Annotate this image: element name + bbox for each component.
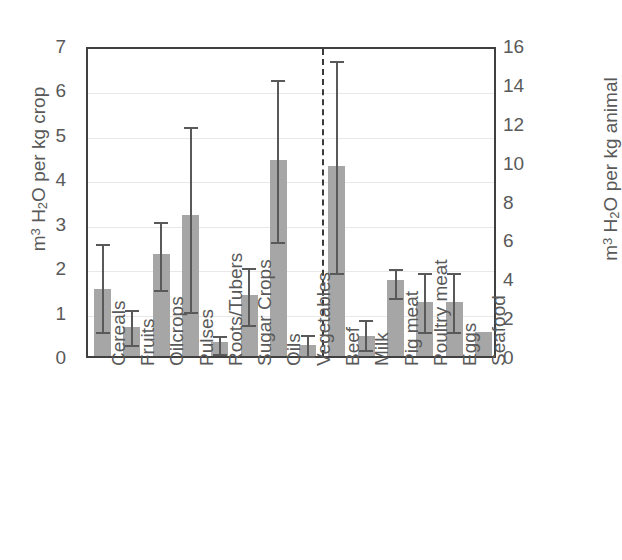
- x-label-poultry-meat: Poultry meat: [431, 259, 450, 366]
- x-label-sugar-crops: Sugar Crops: [255, 259, 274, 366]
- x-label-seafood: Seafood: [489, 295, 508, 366]
- x-label-fruits: Fruits: [138, 319, 157, 367]
- x-label-pig-meat: Pig meat: [402, 291, 421, 366]
- x-label-cereals: Cereals: [109, 301, 128, 366]
- x-label-beef: Beef: [343, 327, 362, 366]
- x-label-roots-tubers: Roots/Tubers: [226, 253, 245, 366]
- x-label-vegetables: Vegetables: [314, 272, 333, 366]
- x-label-oils: Oils: [284, 333, 303, 366]
- x-label-milk: Milk: [372, 332, 391, 366]
- x-label-eggs: Eggs: [460, 323, 479, 366]
- x-label-pulses: Pulses: [197, 309, 216, 366]
- x-label-oilcrops: Oilcrops: [167, 296, 186, 366]
